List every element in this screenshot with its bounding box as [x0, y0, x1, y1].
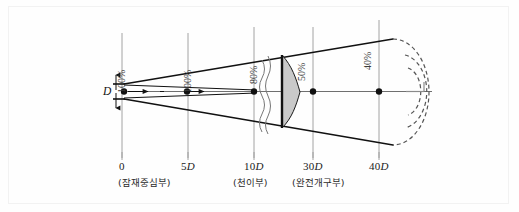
percent-label-50-at-30d: 50%: [296, 63, 307, 81]
core-lower: [124, 93, 256, 98]
axis-label-30d: 30D: [303, 160, 323, 172]
percent-label-80-at-10d: 80%: [248, 66, 259, 84]
axis-label-40d-suffix: D: [380, 160, 388, 172]
percent-label-40-at-40d: 40%: [362, 52, 373, 70]
jet-boundary-lower: [124, 99, 393, 145]
axis-label-5d: 5D: [181, 160, 195, 172]
axis-label-40d: 40D: [369, 160, 389, 172]
diameter-label: D: [103, 85, 111, 97]
axis-label-40d-value: 40: [369, 160, 380, 172]
axis-label-0-value: 0: [119, 160, 125, 172]
region-label-fully-developed: (완전개구부): [292, 175, 344, 189]
axis-ticks: [122, 152, 379, 160]
node-40d: [376, 88, 382, 94]
node-10d: [251, 88, 257, 94]
far-field-center-marker: [406, 82, 424, 92]
region-label-transition: (천이부): [233, 175, 267, 189]
node-30d: [310, 88, 316, 94]
axis-label-30d-suffix: D: [314, 160, 322, 172]
axis-label-30d-value: 30: [303, 160, 314, 172]
axis-label-0: 0: [119, 160, 125, 172]
wavy-line-1: [260, 60, 265, 132]
percent-label-100-at-5d: 100%: [182, 70, 193, 93]
region-label-potential-core: (잠재중심부): [118, 175, 170, 189]
jet-flow-figure: D 100% 100% 80% 50% 40% 0 5D 10D 30D 40D…: [0, 0, 519, 212]
wavy-line-2: [266, 56, 271, 134]
percent-label-100-at-0: 100%: [116, 70, 127, 93]
axis-label-5d-suffix: D: [187, 160, 195, 172]
axis-label-10d: 10D: [244, 160, 264, 172]
gridlines: [122, 20, 379, 158]
axis-label-10d-suffix: D: [255, 160, 263, 172]
axis-label-10d-value: 10: [244, 160, 255, 172]
